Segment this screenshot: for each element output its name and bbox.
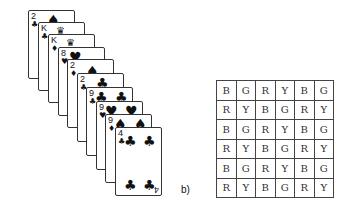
grid-cell: G xyxy=(236,120,256,140)
grid-cell: R xyxy=(256,159,276,179)
grid-cell: R xyxy=(217,139,237,159)
grid-cell: Y xyxy=(314,178,334,198)
grid-row: RYBGRY xyxy=(217,139,334,159)
grid-cell: G xyxy=(314,120,334,140)
card-rank-bottom: 4 xyxy=(154,185,159,194)
grid-cell: B xyxy=(295,120,315,140)
grid-cell: Y xyxy=(314,139,334,159)
grid-row: BGRYBG xyxy=(217,81,334,101)
club-icon: ♣ xyxy=(124,178,137,192)
grid-cell: G xyxy=(275,139,295,159)
grid-cell: G xyxy=(236,159,256,179)
grid-cell: G xyxy=(275,178,295,198)
grid-cell: Y xyxy=(236,100,256,120)
grid-cell: G xyxy=(236,81,256,101)
grid-cell: Y xyxy=(314,100,334,120)
grid-row: BGRYBG xyxy=(217,159,334,179)
grid-cell: R xyxy=(217,100,237,120)
grid-cell: Y xyxy=(236,139,256,159)
grid-cell: G xyxy=(314,159,334,179)
grid-cell: R xyxy=(217,178,237,198)
grid-cell: B xyxy=(217,120,237,140)
grid-cell: B xyxy=(256,139,276,159)
grid-cell: R xyxy=(295,178,315,198)
grid-cell: B xyxy=(217,159,237,179)
grid-cell: B xyxy=(295,159,315,179)
grid-cell: Y xyxy=(275,159,295,179)
grid-row: RYBGRY xyxy=(217,100,334,120)
grid-cell: B xyxy=(256,100,276,120)
card-10: 4 ♣ ♣ ♣ ♣ ♣ 4 xyxy=(115,127,162,196)
grid-cell: Y xyxy=(275,81,295,101)
grid-cell: R xyxy=(256,81,276,101)
grid-cell: Y xyxy=(236,178,256,198)
grid-cell: B xyxy=(217,81,237,101)
club-icon: ♣ xyxy=(143,134,156,148)
grid-cell: B xyxy=(256,178,276,198)
club-icon: ♣ xyxy=(124,134,137,148)
panel-label: b) xyxy=(181,184,190,195)
grid-cell: R xyxy=(295,100,315,120)
grid-row: BGRYBG xyxy=(217,120,334,140)
grid-cell: G xyxy=(314,81,334,101)
grid-cell: R xyxy=(256,120,276,140)
grid-cell: G xyxy=(275,100,295,120)
grid-body: BGRYBGRYBGRYBGRYBGRYBGRYBGRYBGRYBGRY xyxy=(217,81,334,198)
grid-row: RYBGRY xyxy=(217,178,334,198)
grid-cell: B xyxy=(295,81,315,101)
color-grid: BGRYBGRYBGRYBGRYBGRYBGRYBGRYBGRYBGRY xyxy=(216,80,334,198)
grid-cell: R xyxy=(295,139,315,159)
grid-cell: Y xyxy=(275,120,295,140)
